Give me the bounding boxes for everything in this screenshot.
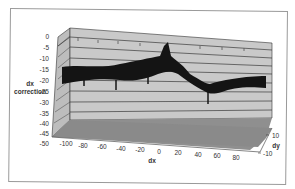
x-axis-label: dx: [148, 157, 156, 164]
z-tick: -10: [263, 150, 273, 157]
x-tick: -60: [97, 143, 107, 150]
y-tick: -20: [40, 77, 50, 84]
z-axis-label: dy: [272, 142, 280, 150]
x-tick: 80: [232, 154, 240, 161]
z-tick: 10: [272, 132, 280, 139]
surface-chart: 0 -5 -10 -15 -20 -25 -30 -35 -40 -45 -50…: [0, 0, 295, 189]
y-axis-label-line1: dx: [26, 80, 34, 87]
x-tick: -100: [59, 140, 72, 147]
x-tick: 60: [213, 152, 221, 159]
y-tick: -35: [40, 110, 50, 117]
y-tick: -40: [40, 120, 50, 127]
y-tick: -10: [40, 55, 50, 62]
y-tick: 0: [45, 33, 49, 40]
x-tick: -80: [78, 142, 88, 149]
y-axis-label-line2: correction: [14, 88, 46, 95]
x-tick: -40: [116, 145, 126, 152]
y-tick: -50: [40, 140, 50, 147]
y-tick: -5: [43, 44, 49, 51]
x-tick: 40: [194, 151, 202, 158]
y-tick: -45: [40, 130, 50, 137]
x-tick: 0: [157, 148, 161, 155]
x-tick: 20: [174, 149, 182, 156]
y-tick: -30: [40, 99, 50, 106]
x-tick: -20: [135, 146, 145, 153]
y-tick: -15: [40, 66, 50, 73]
